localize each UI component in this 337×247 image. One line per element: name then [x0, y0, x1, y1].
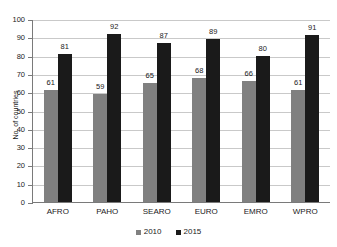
y-axis-tick — [28, 57, 32, 58]
y-axis-tick-label: 80 — [0, 53, 25, 61]
bar-value-label: 61 — [47, 79, 55, 87]
y-axis-tick-label: 40 — [0, 126, 25, 134]
y-axis-tick-label: 60 — [0, 89, 25, 97]
y-axis-tick-label: 50 — [0, 108, 25, 116]
y-axis-tick-label: 0 — [0, 199, 25, 207]
bar: 81 — [58, 54, 72, 202]
legend-label: 2015 — [184, 228, 202, 236]
bar-value-label: 92 — [110, 23, 118, 31]
bar: 65 — [143, 83, 157, 202]
bar-value-label: 59 — [96, 83, 104, 91]
y-axis-tick — [28, 130, 32, 131]
x-axis-label: EURO — [182, 207, 232, 216]
x-axis-label: AFRO — [33, 207, 83, 216]
bar-group: 6181 — [33, 19, 83, 202]
y-axis-tick-label: 90 — [0, 34, 25, 42]
y-axis-tick — [28, 93, 32, 94]
bar-value-label: 87 — [160, 32, 168, 40]
bar-value-label: 61 — [294, 79, 302, 87]
bar-group: 6191 — [281, 19, 331, 202]
legend-item[interactable]: 2010 — [136, 228, 162, 236]
bar-value-label: 81 — [61, 43, 69, 51]
bar-value-label: 89 — [209, 28, 217, 36]
y-axis-tick — [28, 203, 32, 204]
legend-swatch-icon — [176, 230, 181, 235]
bar-value-label: 66 — [245, 70, 253, 78]
bar-value-label: 65 — [146, 72, 154, 80]
y-axis-tick — [28, 148, 32, 149]
x-axis-label: PAHO — [83, 207, 133, 216]
y-axis-tick — [28, 112, 32, 113]
y-axis-tick-label: 30 — [0, 144, 25, 152]
y-axis-tick — [28, 185, 32, 186]
legend-swatch-icon — [136, 230, 141, 235]
x-axis-label: SEARO — [132, 207, 182, 216]
bar-chart: No. of countries 0102030405060708090100 … — [0, 0, 337, 247]
bar: 59 — [93, 94, 107, 202]
y-axis-tick-label: 70 — [0, 71, 25, 79]
bar: 91 — [305, 35, 319, 202]
bar: 68 — [192, 78, 206, 202]
bar-value-label: 91 — [308, 24, 316, 32]
legend: 20102015 — [0, 228, 337, 236]
bar: 80 — [256, 56, 270, 202]
legend-label: 2010 — [144, 228, 162, 236]
y-axis-tick — [28, 166, 32, 167]
y-axis-tick — [28, 20, 32, 21]
y-axis-tick-label: 10 — [0, 181, 25, 189]
bar-value-label: 80 — [259, 45, 267, 53]
bar-group: 6587 — [132, 19, 182, 202]
plot-area: 618159926587688966806191 — [33, 20, 330, 203]
bar: 92 — [107, 34, 121, 202]
bar-group: 6889 — [182, 19, 232, 202]
bar-group: 5992 — [83, 19, 133, 202]
bar: 87 — [157, 43, 171, 202]
bar: 61 — [44, 90, 58, 202]
bar-group: 6680 — [231, 19, 281, 202]
bar-value-label: 68 — [195, 67, 203, 75]
x-axis-label: WPRO — [281, 207, 331, 216]
y-axis-tick — [28, 38, 32, 39]
bar: 89 — [206, 39, 220, 202]
y-axis-tick-label: 100 — [0, 16, 25, 24]
bar: 66 — [242, 81, 256, 202]
y-axis-tick — [28, 75, 32, 76]
y-axis-tick-label: 20 — [0, 162, 25, 170]
x-axis-label: EMRO — [231, 207, 281, 216]
legend-item[interactable]: 2015 — [176, 228, 202, 236]
x-axis-line — [33, 202, 330, 203]
bar: 61 — [291, 90, 305, 202]
